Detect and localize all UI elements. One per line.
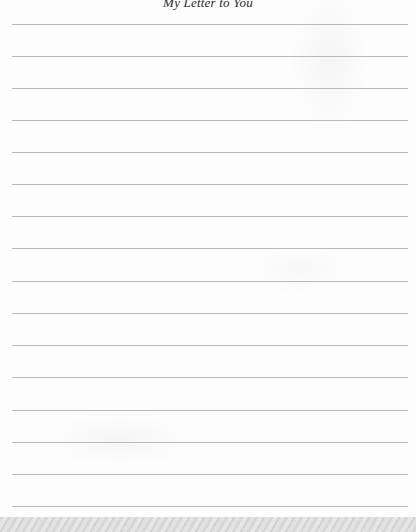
- writing-line[interactable]: [12, 313, 408, 314]
- writing-line[interactable]: [12, 474, 408, 475]
- writing-line[interactable]: [12, 184, 408, 185]
- writing-line[interactable]: [12, 88, 408, 89]
- writing-line[interactable]: [12, 120, 408, 121]
- writing-line[interactable]: [12, 345, 408, 346]
- writing-line[interactable]: [12, 377, 408, 378]
- writing-line[interactable]: [12, 281, 408, 282]
- writing-line[interactable]: [12, 442, 408, 443]
- writing-line[interactable]: [12, 56, 408, 57]
- letter-title: My Letter to You: [0, 0, 416, 11]
- bottom-texture-strip: [0, 517, 416, 532]
- writing-line[interactable]: [12, 152, 408, 153]
- writing-line[interactable]: [12, 216, 408, 217]
- writing-line[interactable]: [12, 24, 408, 25]
- writing-line[interactable]: [12, 506, 408, 507]
- writing-line[interactable]: [12, 410, 408, 411]
- writing-line[interactable]: [12, 248, 408, 249]
- letter-page: My Letter to You: [0, 0, 416, 532]
